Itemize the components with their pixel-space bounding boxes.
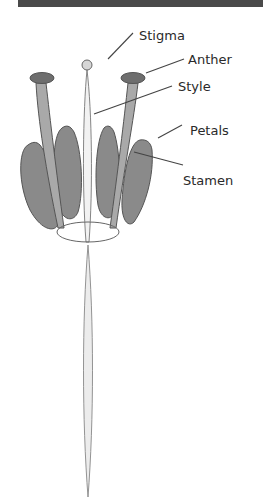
stigma (82, 60, 92, 70)
anther-left (30, 73, 54, 84)
style (83, 70, 91, 242)
flower-diagram: Stigma Anther Style Petals Stamen (0, 0, 263, 497)
label-style: Style (178, 79, 211, 94)
label-anther: Anther (188, 52, 232, 67)
anther-right (121, 73, 145, 84)
label-stamen: Stamen (183, 173, 233, 188)
label-stigma: Stigma (139, 28, 185, 43)
label-petals: Petals (190, 123, 229, 138)
ovary-stalk (84, 245, 93, 497)
leader-petals (158, 125, 182, 138)
leader-stigma (108, 33, 133, 59)
leader-anther (146, 59, 184, 73)
